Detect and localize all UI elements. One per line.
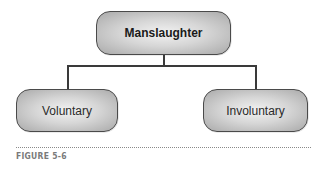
- horizontal-branch-connector: [67, 65, 257, 67]
- root-node-label: Manslaughter: [124, 26, 202, 40]
- root-node-manslaughter: Manslaughter: [96, 11, 231, 55]
- child-node-label: Involuntary: [226, 104, 285, 118]
- child-node-voluntary: Voluntary: [16, 89, 118, 132]
- left-branch-connector: [67, 65, 69, 89]
- child-node-involuntary: Involuntary: [203, 89, 308, 132]
- child-node-label: Voluntary: [42, 104, 92, 118]
- root-stem-connector: [163, 55, 165, 65]
- caption-divider: [16, 147, 311, 148]
- figure-caption: FIGURE 5-6: [16, 151, 67, 161]
- right-branch-connector: [255, 65, 257, 89]
